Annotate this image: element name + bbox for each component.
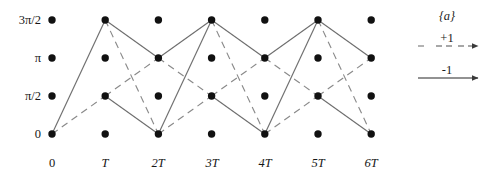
trellis-state-node [368, 130, 375, 137]
trellis-branch [52, 20, 105, 134]
trellis-state-node [208, 130, 215, 137]
trellis-branch [212, 96, 265, 134]
legend-title: {a} [439, 9, 455, 24]
trellis-state-node [102, 130, 109, 137]
trellis-branch [212, 20, 265, 134]
trellis-state-node [368, 92, 375, 99]
trellis-branch [105, 96, 158, 134]
legend-entry-plus-one: +1 [440, 31, 453, 46]
trellis-branch [265, 20, 318, 58]
trellis-branch [158, 96, 211, 134]
trellis-state-node [48, 16, 55, 23]
trellis-state-node [155, 130, 162, 137]
x-axis-label-6T: 6T [364, 156, 377, 171]
trellis-state-node [155, 92, 162, 99]
trellis-state-node [208, 54, 215, 61]
trellis-state-node [368, 54, 375, 61]
trellis-canvas [0, 0, 490, 183]
x-axis-label-3T: 3T [205, 156, 218, 171]
x-axis-label-T: T [102, 156, 109, 171]
x-axis-label-0: 0 [49, 156, 55, 171]
trellis-state-node [48, 54, 55, 61]
x-axis-label-5T: 5T [311, 156, 324, 171]
trellis-state-node [261, 130, 268, 137]
trellis-state-node [208, 16, 215, 23]
trellis-state-node [102, 54, 109, 61]
trellis-branch [105, 20, 158, 134]
trellis-branch [52, 96, 105, 134]
y-axis-label-pi: π [0, 51, 41, 66]
trellis-branch [318, 20, 371, 134]
trellis-branch [318, 20, 371, 58]
trellis-branch [158, 20, 211, 58]
trellis-state-node [48, 130, 55, 137]
trellis-branch [158, 20, 211, 134]
trellis-branch [265, 20, 318, 134]
trellis-state-node [261, 54, 268, 61]
legend-entry-minus-one: -1 [442, 63, 452, 78]
trellis-branch [318, 96, 371, 134]
trellis-branch [212, 20, 265, 58]
trellis-state-node [368, 16, 375, 23]
trellis-state-node [261, 92, 268, 99]
trellis-state-node [155, 16, 162, 23]
branch-layer [52, 20, 371, 134]
trellis-state-node [155, 54, 162, 61]
trellis-branch [105, 20, 158, 58]
trellis-state-node [102, 16, 109, 23]
y-axis-label-pi-2: π/2 [0, 89, 41, 104]
trellis-state-node [48, 92, 55, 99]
y-axis-label-0: 0 [0, 127, 41, 142]
trellis-state-node [261, 16, 268, 23]
x-axis-label-2T: 2T [151, 156, 164, 171]
trellis-state-node [314, 16, 321, 23]
trellis-branch [265, 96, 318, 134]
y-axis-label-3pi-2: 3π/2 [0, 13, 41, 28]
trellis-state-node [314, 54, 321, 61]
trellis-state-node [314, 130, 321, 137]
trellis-state-node [314, 92, 321, 99]
trellis-state-node [102, 92, 109, 99]
x-axis-label-4T: 4T [258, 156, 271, 171]
node-layer [48, 16, 375, 137]
trellis-state-node [208, 92, 215, 99]
trellis-diagram-figure: 3π/2 π π/2 0 0 T 2T 3T 4T 5T 6T {a} +1 -… [0, 0, 490, 183]
